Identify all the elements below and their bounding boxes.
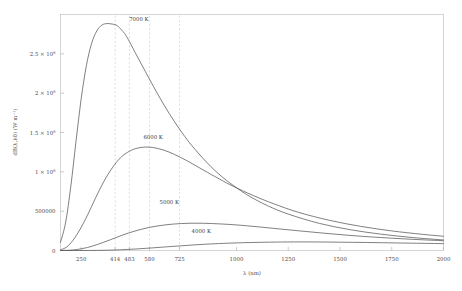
y-axis-title: dB(λ,λ0) (W m⁻¹) — [12, 109, 18, 156]
x-tick-label: 414 — [110, 256, 121, 262]
x-tick-label: 725 — [174, 256, 185, 262]
x-tick-label: 1250 — [281, 256, 295, 262]
x-tick-label: 580 — [144, 256, 155, 262]
y-tick-label: 2.5 × 106 — [30, 51, 56, 57]
x-tick-label: 483 — [124, 256, 135, 262]
x-axis-title: λ (nm) — [243, 270, 261, 276]
chart-svg: 05000001 × 1061.5 × 1062 × 1062.5 × 106 … — [0, 0, 462, 291]
curve-label-7000k: 7000 K — [129, 16, 149, 22]
chart-background — [0, 0, 462, 291]
y-tick-label: 1.5 × 106 — [30, 130, 56, 136]
x-tick-label: 1750 — [385, 256, 399, 262]
x-tick-label: 250 — [76, 256, 87, 262]
y-tick-label: 1 × 106 — [35, 169, 56, 175]
blackbody-spectrum-chart: 05000001 × 1061.5 × 1062 × 1062.5 × 106 … — [0, 0, 462, 291]
curve-label-4000k: 4000 K — [192, 228, 212, 234]
x-tick-label: 2000 — [437, 256, 451, 262]
x-tick-label: 1000 — [230, 256, 244, 262]
curve-label-6000k: 6000 K — [143, 134, 163, 140]
y-tick-label: 500000 — [35, 208, 56, 214]
x-tick-label: 1500 — [333, 256, 347, 262]
curve-label-5000k: 5000 K — [160, 199, 180, 205]
y-tick-label: 0 — [52, 248, 56, 254]
y-tick-label: 2 × 106 — [35, 90, 56, 96]
